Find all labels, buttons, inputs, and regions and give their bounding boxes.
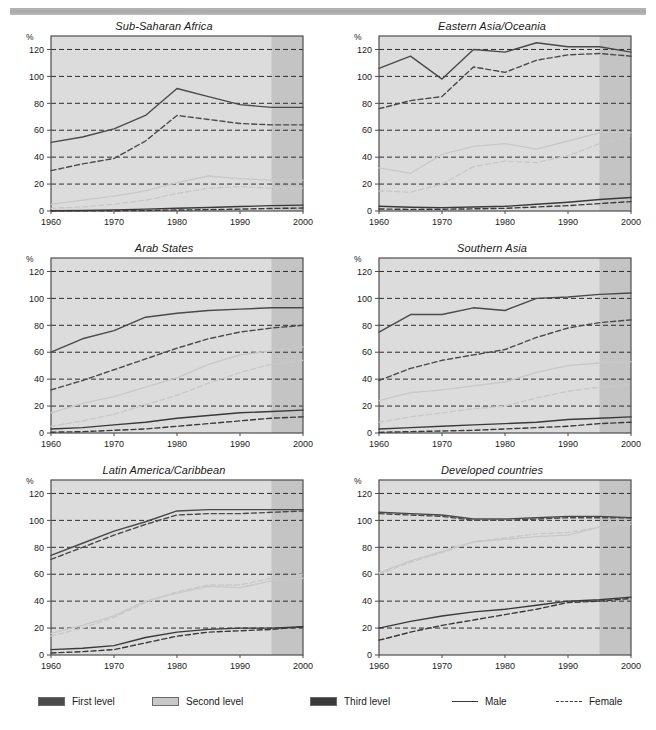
chart-panel-sub-saharan-africa: Sub-Saharan Africa % 0204060801001201960… <box>0 18 328 240</box>
y-tick-label: 120 <box>357 267 372 277</box>
plot-background <box>51 258 303 433</box>
page-footer-clipped-text <box>0 719 656 728</box>
legend-label: Male <box>485 696 507 707</box>
y-tick-label: 40 <box>34 374 44 384</box>
x-tick-label: 1970 <box>432 439 452 449</box>
y-tick-label: 100 <box>29 516 44 526</box>
y-tick-label: 100 <box>357 72 372 82</box>
y-tick-label: 120 <box>29 45 44 55</box>
x-tick-label: 1990 <box>558 661 578 671</box>
x-tick-label: 1980 <box>495 439 515 449</box>
x-tick-label: 2000 <box>621 217 641 227</box>
y-tick-label: 20 <box>34 401 44 411</box>
x-tick-label: 1990 <box>558 217 578 227</box>
x-tick-label: 1970 <box>432 661 452 671</box>
y-tick-label: 40 <box>34 596 44 606</box>
y-tick-label: 80 <box>362 543 372 553</box>
x-tick-label: 1980 <box>167 439 187 449</box>
x-tick-label: 1980 <box>495 217 515 227</box>
dashed-line-icon <box>556 697 582 706</box>
y-tick-label: 120 <box>357 45 372 55</box>
legend-item-female: Female <box>556 690 622 712</box>
legend-label: Female <box>589 696 622 707</box>
y-tick-label: 40 <box>362 374 372 384</box>
x-tick-label: 1990 <box>558 439 578 449</box>
y-tick-label: 20 <box>362 623 372 633</box>
y-tick-label: 0 <box>39 650 44 660</box>
y-tick-label: 60 <box>362 347 372 357</box>
projection-band <box>272 258 304 433</box>
y-tick-label: 40 <box>34 152 44 162</box>
y-tick-label: 60 <box>362 125 372 135</box>
y-tick-label: 20 <box>362 179 372 189</box>
projection-band <box>600 36 632 211</box>
chart-panel-arab-states: Arab States % 02040608010012019601970198… <box>0 240 328 462</box>
y-tick-label: 0 <box>39 428 44 438</box>
y-tick-label: 80 <box>34 99 44 109</box>
y-tick-label: 40 <box>362 596 372 606</box>
y-tick-label: 60 <box>34 347 44 357</box>
x-tick-label: 1960 <box>41 661 61 671</box>
x-tick-label: 1990 <box>230 661 250 671</box>
x-tick-label: 2000 <box>293 217 313 227</box>
x-tick-label: 1990 <box>230 439 250 449</box>
chart-svg-0: 02040608010012019601970198019902000 <box>0 18 328 240</box>
chart-svg-5: 02040608010012019601970198019902000 <box>328 462 656 684</box>
y-tick-label: 120 <box>357 489 372 499</box>
x-tick-label: 1970 <box>432 217 452 227</box>
y-tick-label: 0 <box>367 428 372 438</box>
x-tick-label: 1970 <box>104 661 124 671</box>
solid-line-icon <box>452 697 478 706</box>
chart-panel-latin-america-caribbean: Latin America/Caribbean % 02040608010012… <box>0 462 328 684</box>
x-tick-label: 1970 <box>104 217 124 227</box>
plot-area: 02040608010012019601970198019902000 <box>328 240 656 462</box>
plot-area: 02040608010012019601970198019902000 <box>0 18 328 240</box>
legend-item-third-level: Third level <box>310 690 390 712</box>
x-tick-label: 1980 <box>495 661 515 671</box>
projection-band <box>600 258 632 433</box>
figure-legend: First level Second level Third level Mal… <box>0 690 656 716</box>
chart-panel-southern-asia: Southern Asia % 020406080100120196019701… <box>328 240 656 462</box>
y-tick-label: 120 <box>29 267 44 277</box>
x-tick-label: 2000 <box>293 439 313 449</box>
legend-item-male: Male <box>452 690 507 712</box>
legend-item-first-level: First level <box>38 690 115 712</box>
y-tick-label: 60 <box>34 125 44 135</box>
x-tick-label: 1980 <box>167 661 187 671</box>
x-tick-label: 1960 <box>41 439 61 449</box>
legend-label: Second level <box>186 696 243 707</box>
x-tick-label: 1960 <box>369 661 389 671</box>
y-tick-label: 20 <box>34 623 44 633</box>
plot-background <box>51 36 303 211</box>
x-tick-label: 2000 <box>621 661 641 671</box>
projection-band <box>272 36 304 211</box>
legend-label: First level <box>72 696 115 707</box>
plot-area: 02040608010012019601970198019902000 <box>0 462 328 684</box>
y-tick-label: 60 <box>362 569 372 579</box>
figure-page: Sub-Saharan Africa % 0204060801001201960… <box>0 0 656 730</box>
y-tick-label: 80 <box>34 543 44 553</box>
x-tick-label: 1960 <box>369 439 389 449</box>
x-tick-label: 1980 <box>167 217 187 227</box>
x-tick-label: 1990 <box>230 217 250 227</box>
y-tick-label: 0 <box>367 650 372 660</box>
projection-band <box>600 480 632 655</box>
y-tick-label: 40 <box>362 152 372 162</box>
chart-svg-4: 02040608010012019601970198019902000 <box>0 462 328 684</box>
y-tick-label: 0 <box>39 206 44 216</box>
third-level-swatch-icon <box>310 697 337 706</box>
x-tick-label: 1960 <box>41 217 61 227</box>
y-tick-label: 20 <box>34 179 44 189</box>
plot-area: 02040608010012019601970198019902000 <box>328 18 656 240</box>
chart-grid: Sub-Saharan Africa % 0204060801001201960… <box>0 18 656 686</box>
y-tick-label: 120 <box>29 489 44 499</box>
chart-panel-developed-countries: Developed countries % 020406080100120196… <box>328 462 656 684</box>
plot-background <box>379 480 631 655</box>
plot-area: 02040608010012019601970198019902000 <box>0 240 328 462</box>
plot-background <box>379 36 631 211</box>
second-level-swatch-icon <box>152 697 179 706</box>
y-tick-label: 80 <box>362 99 372 109</box>
y-tick-label: 100 <box>29 294 44 304</box>
plot-background <box>379 258 631 433</box>
plot-area: 02040608010012019601970198019902000 <box>328 462 656 684</box>
